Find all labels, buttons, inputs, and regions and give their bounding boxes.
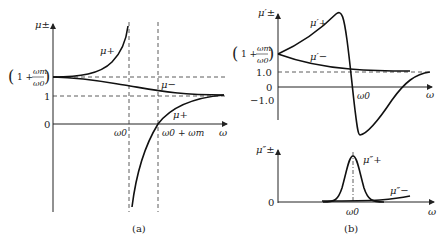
label-mu-prime-plus: μ′+	[310, 17, 327, 28]
svg-text:1 +: 1 +	[241, 49, 257, 59]
svg-text:ω0: ω0	[257, 56, 269, 65]
svg-text:ω0: ω0	[33, 79, 45, 88]
caption-b: (b)	[344, 223, 358, 234]
upper-level-tick-b: ( 1 + ωm ω0 )	[232, 44, 274, 65]
tick-omega0-plus-m: ω0 + ωm	[162, 128, 204, 138]
diagram: μ± ω ( 1 + ωm ω0 ) 1 0 ω0 ω0 + ωm μ+ μ− …	[0, 0, 447, 244]
tick-zero-b: 0	[266, 82, 272, 93]
label-mu-minus: μ−	[161, 79, 176, 90]
tick-omega0-b-lower: ω0	[346, 207, 359, 217]
panel-b-lower: μ″± ω 0 ω0 μ″+ μ″− (b)	[256, 144, 436, 234]
x-axis-label: ω	[219, 127, 227, 138]
tick-minus-one-b: −1.0	[250, 95, 274, 106]
svg-text:(: (	[232, 44, 238, 63]
panel-a: μ± ω ( 1 + ωm ω0 ) 1 0 ω0 ω0 + ωm μ+ μ− …	[8, 19, 227, 234]
tick-omega0-b-upper: ω0	[357, 91, 370, 101]
tick-one: 1	[44, 91, 50, 102]
x-axis-label-b-lower: ω	[428, 206, 436, 217]
label-mu-dprime-minus: μ″−	[390, 185, 409, 196]
mu-prime-minus-curve	[278, 54, 410, 71]
y-axis-label-b-upper: μ′±	[258, 7, 275, 18]
label-mu-plus-upper: μ+	[100, 45, 115, 56]
upper-level-tick: ( 1 + ωm ω0 )	[8, 67, 50, 88]
y-axis-label: μ±	[35, 19, 50, 30]
svg-text:(: (	[8, 67, 14, 86]
tick-zero: 0	[44, 119, 50, 130]
tick-omega0: ω0	[114, 128, 127, 138]
svg-text:1 +: 1 +	[17, 72, 33, 82]
tick-one-b: 1.0	[256, 67, 272, 78]
x-axis-label-b-upper: ω	[426, 89, 434, 100]
label-mu-plus-lower: μ+	[173, 109, 188, 120]
caption-a: (a)	[132, 223, 146, 234]
mu-dprime-minus-curve	[322, 196, 410, 201]
mu-minus-curve	[53, 77, 224, 95]
mu-prime-plus-curve	[278, 13, 430, 135]
mu-plus-upper-curve	[53, 26, 128, 77]
y-axis-label-b-lower: μ″±	[256, 144, 275, 155]
svg-text:): )	[268, 44, 274, 63]
panel-b-upper: μ′± ω ( 1 + ωm ω0 ) 1.0 0 −1.0 ω0 μ′+ μ′…	[232, 7, 434, 135]
label-mu-dprime-plus: μ″+	[363, 154, 382, 165]
label-mu-prime-minus: μ′−	[310, 51, 327, 62]
svg-text:): )	[44, 67, 50, 86]
tick-zero-b-lower: 0	[268, 197, 274, 208]
